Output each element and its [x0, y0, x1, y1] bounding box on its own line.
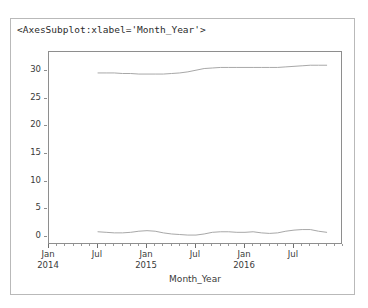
x-axis-major-tick-mark	[195, 244, 196, 248]
x-axis-minor-tick-mark	[56, 244, 57, 246]
y-axis-tick-mark	[44, 125, 47, 126]
x-axis-minor-tick-mark	[228, 244, 229, 246]
x-axis-minor-tick-mark	[318, 244, 319, 246]
x-axis-minor-tick-mark	[252, 244, 253, 246]
x-axis-minor-tick-mark	[277, 244, 278, 246]
x-axis-minor-tick-mark	[269, 244, 270, 246]
y-axis-tick-label: 0	[36, 230, 41, 240]
x-axis-tick-label: Jan 2015	[135, 249, 157, 270]
y-axis-tick-label: 30	[30, 64, 41, 74]
x-axis-minor-tick-mark	[105, 244, 106, 246]
x-axis-minor-tick-mark	[187, 244, 188, 246]
x-axis-label: Month_Year	[48, 274, 342, 284]
x-axis-tick-label: Jan 2016	[233, 249, 255, 270]
x-axis-minor-tick-mark	[220, 244, 221, 246]
y-axis-tick-label: 20	[30, 119, 41, 129]
x-axis-minor-tick-mark	[236, 244, 237, 246]
x-axis-tick-label: Jul	[288, 249, 298, 260]
y-axis-tick-mark	[44, 236, 47, 237]
x-axis-major-tick-mark	[293, 244, 294, 248]
y-axis-tick-label: 10	[30, 175, 41, 185]
y-axis-tick-label: 5	[36, 202, 41, 212]
y-axis-tick: 20	[11, 125, 48, 126]
notebook-output-container: <AxesSubplot:xlabel='Month_Year'> 051015…	[10, 18, 355, 295]
x-axis-minor-tick-mark	[285, 244, 286, 246]
y-axis-tick: 25	[11, 98, 48, 99]
y-axis-tick: 15	[11, 153, 48, 154]
y-axis-tick: 5	[11, 208, 48, 209]
data-line-upper	[98, 65, 327, 74]
x-axis-major-tick-mark	[244, 244, 245, 248]
y-axis-tick: 30	[11, 70, 48, 71]
y-axis-tick-mark	[44, 98, 47, 99]
x-axis-ticks	[48, 244, 342, 247]
y-axis-tick-mark	[44, 70, 47, 71]
x-axis-minor-tick-mark	[154, 244, 155, 246]
x-axis-tick-label: Jul	[190, 249, 200, 260]
plot-lines-svg	[49, 52, 343, 245]
screenshot-root: <AxesSubplot:xlabel='Month_Year'> 051015…	[0, 0, 368, 308]
x-axis-minor-tick-mark	[89, 244, 90, 246]
x-axis-minor-tick-mark	[334, 244, 335, 246]
data-line-lower	[98, 230, 327, 236]
x-axis-minor-tick-mark	[64, 244, 65, 246]
x-axis-minor-tick-mark	[211, 244, 212, 246]
x-axis-major-tick-mark	[48, 244, 49, 248]
x-axis-minor-tick-mark	[203, 244, 204, 246]
y-axis-tick-label: 25	[30, 92, 41, 102]
x-axis-minor-tick-mark	[342, 244, 343, 246]
y-axis-tick: 0	[11, 236, 48, 237]
y-axis-tick: 10	[11, 181, 48, 182]
y-axis-tick-mark	[44, 153, 47, 154]
x-axis-tick-label: Jul	[92, 249, 102, 260]
plot-axes-frame	[48, 51, 342, 244]
x-axis-minor-tick-mark	[171, 244, 172, 246]
x-axis-major-tick-mark	[146, 244, 147, 248]
x-axis-minor-tick-mark	[309, 244, 310, 246]
x-axis-minor-tick-mark	[73, 244, 74, 246]
x-axis-minor-tick-mark	[130, 244, 131, 246]
x-axis-minor-tick-mark	[179, 244, 180, 246]
x-axis-minor-tick-mark	[260, 244, 261, 246]
x-axis-minor-tick-mark	[113, 244, 114, 246]
y-axis-tick-mark	[44, 208, 47, 209]
x-axis-minor-tick-mark	[326, 244, 327, 246]
x-axis-minor-tick-mark	[81, 244, 82, 246]
x-axis-major-tick-mark	[97, 244, 98, 248]
y-axis-tick-label: 15	[30, 147, 41, 157]
x-axis-minor-tick-mark	[162, 244, 163, 246]
x-axis-minor-tick-mark	[301, 244, 302, 246]
matplotlib-figure: 051015202530 Jan 2014JulJan 2015JulJan 2…	[11, 41, 354, 294]
y-axis-tick-mark	[44, 181, 47, 182]
axessubplot-repr-text: <AxesSubplot:xlabel='Month_Year'>	[17, 23, 206, 36]
x-axis-minor-tick-mark	[138, 244, 139, 246]
x-axis-minor-tick-mark	[122, 244, 123, 246]
x-axis-tick-label: Jan 2014	[37, 249, 59, 270]
